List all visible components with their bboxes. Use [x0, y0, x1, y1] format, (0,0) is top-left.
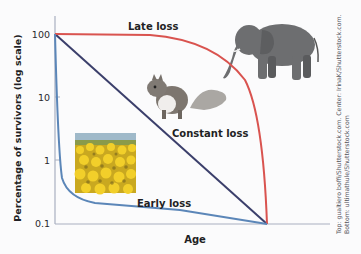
tick-label-100: 100 [32, 29, 50, 40]
survivorship-chart: 100 10 1 0.1 Percentage of survivors (lo… [0, 0, 361, 254]
x-axis-label: Age [184, 234, 206, 245]
dandelion-image [75, 133, 137, 195]
photo-credit-line-1: Top: gualtiero boffi/Shutterstock.com. C… [335, 14, 343, 235]
constant-loss-label: Constant loss [172, 128, 248, 139]
photo-credit-line-2: Bottom: ultimathule/Shutterstock.com [343, 115, 350, 234]
tick-label-0-1: 0.1 [35, 218, 50, 229]
tick-label-1: 1 [44, 155, 50, 166]
squirrel-image [147, 74, 226, 119]
tick-label-10: 10 [38, 92, 50, 103]
late-loss-label: Late loss [128, 21, 178, 32]
early-loss-label: Early loss [137, 198, 191, 209]
y-axis-label: Percentage of survivors (log scale) [12, 34, 23, 221]
